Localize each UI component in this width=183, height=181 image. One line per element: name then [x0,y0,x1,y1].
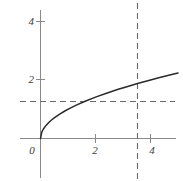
x-axis-label-4: 4 [149,145,155,156]
sqrt-curve [41,73,179,138]
x-axis-label-0: 0 [29,145,35,156]
y-axis-label-4: 4 [22,16,34,27]
y-axis-label-2: 2 [22,74,34,85]
x-axis-label-2: 2 [92,145,98,156]
square-root-function-plot: 0 2 4 2 4 [0,0,183,181]
